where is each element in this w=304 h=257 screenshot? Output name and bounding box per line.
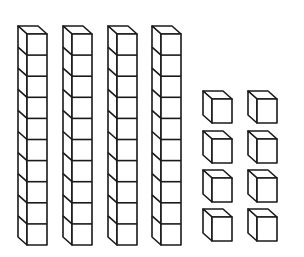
ten-rod-4	[152, 26, 181, 245]
front-face	[212, 139, 232, 163]
base-ten-blocks-diagram: Base-ten blocks	[0, 0, 304, 257]
unit-cube-4	[248, 131, 277, 163]
unit-cube-3	[203, 131, 232, 163]
front-face	[212, 178, 232, 202]
unit-cube-6	[248, 170, 277, 202]
front-face	[257, 178, 277, 202]
front-face	[212, 217, 232, 241]
unit-cube-8	[248, 209, 277, 241]
front-face	[257, 139, 277, 163]
front-face	[257, 217, 277, 241]
front-face	[257, 99, 277, 123]
ten-rod-1	[18, 26, 47, 245]
unit-cube-2	[248, 91, 277, 123]
unit-cube-1	[203, 91, 232, 123]
blocks-canvas	[0, 0, 304, 257]
front-face	[212, 99, 232, 123]
unit-cube-7	[203, 209, 232, 241]
unit-cube-5	[203, 170, 232, 202]
ten-rod-2	[63, 26, 92, 245]
ten-rod-3	[108, 26, 137, 245]
